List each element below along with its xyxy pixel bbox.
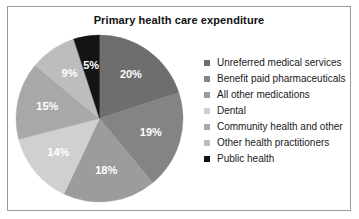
legend: Unreferred medical servicesBenefit paid …	[204, 55, 352, 167]
pie-slice-label: 14%	[47, 146, 69, 158]
legend-item[interactable]: Public health	[204, 151, 352, 167]
chart-frame: Primary health care expenditure 20%19%18…	[7, 6, 351, 211]
pie-slice-label: 18%	[95, 164, 117, 176]
legend-item-label: Benefit paid pharmaceuticals	[217, 71, 345, 87]
legend-item[interactable]: Benefit paid pharmaceuticals	[204, 71, 352, 87]
pie-svg: 20%19%18%14%15%9%5%	[15, 34, 184, 203]
pie-slice-label: 19%	[140, 126, 162, 138]
pie-slice-label: 9%	[62, 67, 78, 79]
pie-slice-label: 5%	[83, 59, 99, 71]
legend-swatch-icon	[204, 156, 210, 162]
pie-slice-label: 15%	[36, 100, 58, 112]
legend-item-label: Community health and other	[217, 119, 343, 135]
legend-item[interactable]: Other health practitioners	[204, 135, 352, 151]
legend-item-label: Dental	[217, 103, 246, 119]
legend-item[interactable]: Dental	[204, 103, 352, 119]
pie-slice-label: 20%	[120, 68, 142, 80]
legend-item-label: All other medications	[217, 87, 310, 103]
legend-item-label: Unreferred medical services	[217, 55, 342, 71]
pie-chart: 20%19%18%14%15%9%5%	[15, 34, 184, 203]
pie-slice-group	[16, 35, 183, 202]
legend-item[interactable]: Community health and other	[204, 119, 352, 135]
legend-swatch-icon	[204, 108, 210, 114]
legend-swatch-icon	[204, 124, 210, 130]
legend-item-label: Other health practitioners	[217, 135, 329, 151]
legend-swatch-icon	[204, 92, 210, 98]
legend-item[interactable]: All other medications	[204, 87, 352, 103]
legend-item-label: Public health	[217, 151, 274, 167]
legend-swatch-icon	[204, 76, 210, 82]
legend-swatch-icon	[204, 140, 210, 146]
legend-item[interactable]: Unreferred medical services	[204, 55, 352, 71]
chart-title: Primary health care expenditure	[8, 14, 350, 26]
legend-swatch-icon	[204, 60, 210, 66]
